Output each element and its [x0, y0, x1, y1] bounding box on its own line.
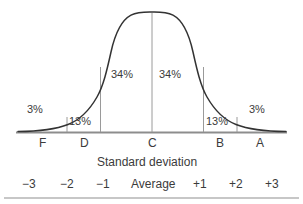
grade-label-b: B	[216, 136, 224, 150]
sd-tick-plus-1: +1	[193, 177, 207, 191]
sd-tick-plus-2: +2	[229, 177, 243, 191]
bottom-divider	[0, 194, 303, 202]
percent-label-mid-left: 34%	[111, 68, 133, 80]
grade-label-d: D	[80, 136, 89, 150]
percent-label-mid-right: 34%	[159, 68, 181, 80]
percent-label-left: 13%	[69, 115, 91, 127]
percent-label-far-left: 3%	[27, 103, 43, 115]
axis-title-standard-deviation: Standard deviation	[97, 155, 197, 169]
sd-tick-average: Average	[131, 177, 175, 191]
grade-label-f: F	[39, 136, 46, 150]
percent-label-far-right: 3%	[249, 103, 265, 115]
grade-label-c: C	[148, 136, 157, 150]
sd-tick-minus-1: −1	[96, 177, 110, 191]
sd-tick-minus-2: −2	[60, 177, 74, 191]
grade-label-a: A	[256, 136, 264, 150]
percent-label-right: 13%	[206, 115, 228, 127]
sd-tick-minus-3: −3	[22, 177, 36, 191]
sd-tick-plus-3: +3	[265, 177, 279, 191]
bell-curve-graphic	[0, 0, 303, 204]
bell-curve-figure: 3% 13% 34% 34% 13% 3% F D C B A Standard…	[0, 0, 303, 204]
